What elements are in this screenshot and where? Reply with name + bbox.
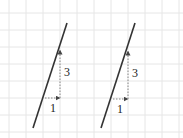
run-label: 1 bbox=[117, 102, 123, 116]
panel-left: 13 bbox=[33, 23, 70, 128]
grid bbox=[0, 0, 183, 138]
slope-diagram: 1313 bbox=[0, 0, 183, 138]
run-label: 1 bbox=[50, 101, 56, 115]
rise-label: 3 bbox=[64, 65, 70, 79]
panels: 1313 bbox=[33, 23, 138, 128]
diagram-canvas: 1313 bbox=[0, 0, 183, 138]
rise-label: 3 bbox=[132, 66, 138, 80]
panel-right: 13 bbox=[101, 23, 138, 128]
